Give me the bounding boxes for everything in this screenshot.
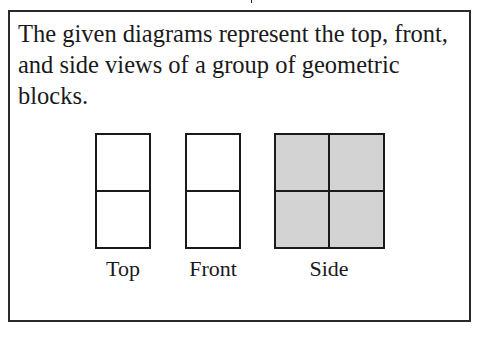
front-view-divider xyxy=(187,190,239,192)
front-view-diagram xyxy=(185,133,241,249)
side-view-label: Side xyxy=(279,256,379,282)
top-view-label: Top xyxy=(73,256,173,282)
cropped-text-fragment xyxy=(251,0,256,3)
top-view-divider xyxy=(97,190,149,192)
side-view-diagram xyxy=(274,133,385,249)
question-text: The given diagrams represent the top, fr… xyxy=(18,18,458,111)
top-view-diagram xyxy=(95,133,151,249)
front-view-label: Front xyxy=(163,256,263,282)
side-view-vertical-divider xyxy=(328,135,330,247)
